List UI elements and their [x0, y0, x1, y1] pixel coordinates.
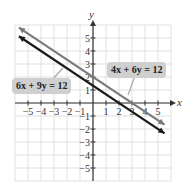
svg-text:2: 2 — [117, 106, 122, 117]
equation-label-4x-6y: 4x + 6y = 12 — [107, 62, 166, 78]
axes — [15, 20, 176, 181]
coordinate-plane: −5−4−3−2−11234554321−1−2−3−4−5 x y — [0, 0, 191, 195]
svg-text:1: 1 — [104, 106, 109, 117]
svg-text:−3: −3 — [79, 137, 90, 148]
svg-text:−2: −2 — [79, 124, 90, 135]
svg-text:5: 5 — [85, 33, 90, 44]
svg-text:3: 3 — [85, 59, 90, 70]
svg-text:−2: −2 — [62, 106, 73, 117]
y-axis-label: y — [88, 8, 94, 20]
svg-text:−5: −5 — [79, 163, 90, 174]
equation-label-6x-9y: 6x + 9y = 12 — [12, 78, 71, 94]
svg-text:4: 4 — [85, 46, 90, 57]
svg-text:−4: −4 — [36, 106, 47, 117]
x-axis-label: x — [176, 96, 182, 108]
svg-text:−3: −3 — [49, 106, 60, 117]
svg-text:−1: −1 — [79, 111, 90, 122]
svg-text:5: 5 — [156, 106, 161, 117]
svg-text:−4: −4 — [79, 150, 90, 161]
svg-text:1: 1 — [85, 85, 90, 96]
svg-text:−5: −5 — [23, 106, 34, 117]
